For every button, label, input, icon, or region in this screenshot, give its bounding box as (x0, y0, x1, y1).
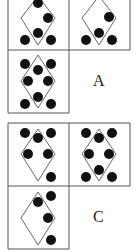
dot (43, 76, 53, 86)
grid-bottom-borders (8, 123, 130, 249)
dot (94, 28, 104, 38)
dot (46, 128, 56, 138)
dot (33, 92, 43, 102)
option-label-c: C (93, 208, 104, 226)
dot (33, 133, 43, 143)
dot (46, 191, 56, 201)
dot (23, 76, 33, 86)
option-label-a: A (93, 72, 105, 90)
dot (33, 197, 43, 207)
dot (107, 172, 117, 182)
dot (84, 149, 94, 159)
dot (81, 128, 91, 138)
dot (20, 35, 30, 45)
dot (94, 165, 104, 175)
dot (43, 149, 53, 159)
dot (94, 133, 104, 143)
dot (104, 12, 114, 22)
dot (33, 28, 43, 38)
dot (33, 0, 43, 8)
dot (107, 128, 117, 138)
dot (46, 235, 56, 245)
dot (33, 65, 43, 75)
dot (46, 172, 56, 182)
dot (20, 59, 30, 69)
dot (81, 172, 91, 182)
dot (43, 213, 53, 223)
dot (43, 13, 53, 23)
dot (46, 59, 56, 69)
puzzle-figure (0, 0, 138, 252)
dot (23, 149, 33, 159)
dot (107, 35, 117, 45)
dot (46, 35, 56, 45)
dot (104, 149, 114, 159)
dot (20, 99, 30, 109)
dot (46, 99, 56, 109)
dot (81, 35, 91, 45)
dot (20, 128, 30, 138)
